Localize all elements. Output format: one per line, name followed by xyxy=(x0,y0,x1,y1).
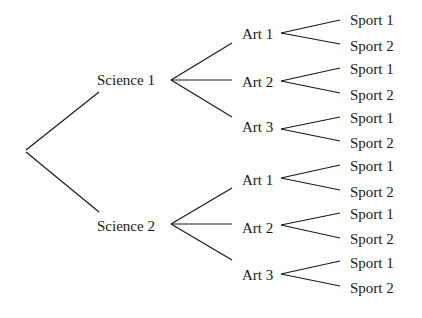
sport-node-label: Sport 2 xyxy=(350,135,394,151)
science-node-label: Science 1 xyxy=(97,72,155,88)
sport-node-label: Sport 1 xyxy=(350,12,394,28)
sport-node-label: Sport 2 xyxy=(350,231,394,247)
sport-node-label: Sport 1 xyxy=(350,255,394,271)
sport-node-label: Sport 2 xyxy=(350,280,394,296)
sport-node-label: Sport 2 xyxy=(350,38,394,54)
sport-node-label: Sport 1 xyxy=(350,206,394,222)
sport-node-label: Sport 1 xyxy=(350,61,394,77)
tree-diagram: Science 1Art 1Sport 1Sport 2Art 2Sport 1… xyxy=(0,0,422,318)
art-node-label: Art 3 xyxy=(242,267,273,283)
science-node-label: Science 2 xyxy=(97,218,155,234)
sport-node-label: Sport 1 xyxy=(350,110,394,126)
art-node-label: Art 3 xyxy=(242,119,273,135)
sport-node-label: Sport 2 xyxy=(350,87,394,103)
art-node-label: Art 1 xyxy=(242,26,273,42)
art-node-label: Art 1 xyxy=(242,172,273,188)
sport-node-label: Sport 2 xyxy=(350,184,394,200)
art-node-label: Art 2 xyxy=(242,74,273,90)
sport-node-label: Sport 1 xyxy=(350,158,394,174)
art-node-label: Art 2 xyxy=(242,220,273,236)
